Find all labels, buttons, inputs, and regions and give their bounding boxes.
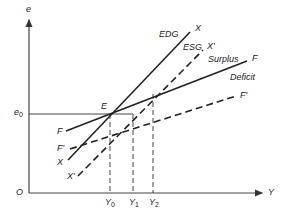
y1-label: Y1 [129, 198, 139, 208]
surplus-label: Surplus [208, 55, 239, 64]
f-curve [66, 61, 247, 131]
e0-label-sub: 0 [19, 111, 23, 118]
x-prime-curve-esg [78, 50, 203, 176]
f-curve-label: F [252, 54, 258, 63]
esg-label: ESG [183, 43, 202, 52]
origin-label: O [16, 188, 23, 197]
y-axis-label: e [26, 5, 31, 14]
x-curve-left-label: X [57, 158, 63, 167]
x-curve-edg [68, 32, 190, 160]
y1-sub: 1 [135, 201, 139, 208]
x-prime-curve-label: X' [207, 42, 215, 51]
edg-label: EDG [159, 30, 179, 39]
y0-label: Y0 [105, 198, 115, 208]
x-prime-curve-left-label: X' [67, 172, 75, 181]
y2-sub: 2 [155, 201, 159, 208]
f-curve-left-label: F [57, 127, 63, 136]
equilibrium-point-label: E [101, 102, 107, 111]
deficit-label: Deficit [230, 73, 255, 82]
diagram-canvas [0, 0, 294, 219]
diagram: e Y O e0 Y0 Y1 Y2 E EDG X ESG X' Surplus… [0, 0, 294, 219]
x-axis-label: Y [268, 188, 274, 197]
y2-label: Y2 [149, 198, 159, 208]
f-prime-curve-left-label: F' [57, 144, 64, 153]
y0-sub: 0 [111, 201, 115, 208]
x-curve-label: X [195, 24, 201, 33]
e0-label: e0 [14, 108, 23, 118]
f-prime-curve-label: F' [240, 91, 247, 100]
